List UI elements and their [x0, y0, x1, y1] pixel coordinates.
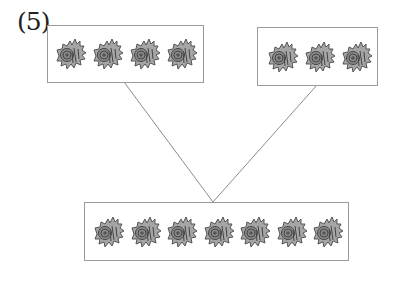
shell-icon [303, 39, 337, 75]
right-connector-line [213, 85, 317, 202]
shell-icon [165, 36, 199, 72]
shell-icon [202, 214, 236, 250]
shell-icon [238, 214, 272, 250]
shell-icon [92, 214, 126, 250]
shell-icon [165, 214, 199, 250]
shell-icon [54, 36, 88, 72]
shell-icon [128, 36, 162, 72]
shell-icon [275, 214, 309, 250]
bottom-group-box [84, 202, 349, 261]
shell-icon [311, 214, 345, 250]
top-left-group-box [47, 25, 204, 83]
shell-icon [91, 36, 125, 72]
left-connector-line [124, 82, 213, 202]
shell-icon [340, 39, 374, 75]
shell-icon [266, 39, 300, 75]
top-right-group-box [257, 27, 378, 86]
shell-icon [129, 214, 163, 250]
